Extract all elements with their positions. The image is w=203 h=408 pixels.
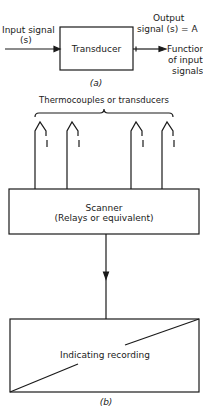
probe-4 bbox=[162, 122, 174, 189]
output-arrowhead-icon bbox=[159, 47, 166, 52]
input-signal-label: Input signal bbox=[2, 25, 55, 35]
recorder-diagonal-upper bbox=[125, 319, 199, 345]
recorder-diagonal-lower bbox=[10, 364, 78, 392]
probe-1 bbox=[35, 122, 47, 189]
caption-b: (b) bbox=[96, 397, 116, 407]
signals-label: signals bbox=[172, 66, 203, 76]
function-label: Function bbox=[167, 44, 203, 54]
brace-icon bbox=[35, 109, 173, 117]
of-input-label: of input bbox=[168, 55, 203, 65]
output-signal-label: signal (s) = A bbox=[137, 24, 198, 34]
recorder-label: Indicating recording bbox=[50, 350, 160, 360]
output-label: Output bbox=[153, 13, 184, 23]
sensors-label: Thermocouples or transducers bbox=[30, 95, 178, 105]
scanner-sublabel: (Relays or equivalent) bbox=[9, 213, 199, 223]
probe-2 bbox=[67, 122, 79, 189]
caption-a: (a) bbox=[86, 78, 106, 88]
scanner-label: Scanner bbox=[9, 203, 199, 213]
transducer-label: Transducer bbox=[60, 44, 133, 54]
input-signal-s-label: (s) bbox=[20, 35, 32, 45]
down-arrowhead-icon bbox=[104, 272, 109, 279]
probe-3 bbox=[131, 122, 143, 189]
